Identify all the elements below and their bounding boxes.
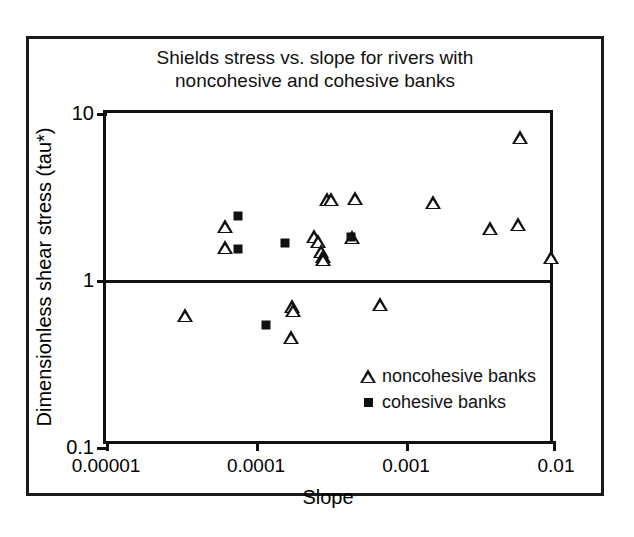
legend-item-cohesive-banks: cohesive banks <box>354 389 536 415</box>
plot-area: 1010.10.000010.00010.0010.01 noncohesive… <box>103 110 553 444</box>
y-tick-label-1: 1 <box>83 270 94 290</box>
data-point-square-4 <box>261 321 270 330</box>
legend-label-cohesive: cohesive banks <box>382 389 506 415</box>
data-point-triangle-14 <box>510 217 526 231</box>
x-tick-1 <box>256 441 259 451</box>
data-point-triangle-18 <box>285 303 301 317</box>
data-point-triangle-16 <box>177 308 193 322</box>
data-point-triangle-13 <box>512 130 528 144</box>
reference-line-tau-1 <box>106 280 550 283</box>
y-tick-1 <box>97 280 107 283</box>
legend-label-noncohesive: noncohesive banks <box>382 363 536 389</box>
y-tick-0 <box>97 113 107 116</box>
x-tick-label-3: 0.01 <box>538 456 575 476</box>
y-tick-label-2: 0.1 <box>66 437 94 457</box>
data-point-triangle-12 <box>482 221 498 235</box>
x-tick-2 <box>406 441 409 451</box>
page-bottom-caption <box>0 502 634 537</box>
data-point-triangle-0 <box>217 219 233 233</box>
data-point-triangle-9 <box>347 191 363 205</box>
x-tick-label-1: 0.0001 <box>227 456 285 476</box>
data-point-triangle-11 <box>425 195 441 209</box>
triangle-marker-icon <box>354 369 382 383</box>
data-point-square-3 <box>346 232 355 241</box>
data-point-triangle-15 <box>543 250 559 264</box>
y-tick-label-0: 10 <box>72 103 94 123</box>
x-tick-0 <box>106 441 109 451</box>
x-tick-label-2: 0.001 <box>382 456 430 476</box>
y-axis-title: Dimensionless shear stress (tau*) <box>30 110 58 444</box>
chart-title: Shields stress vs. slope for rivers with… <box>60 46 570 92</box>
data-point-triangle-8 <box>323 192 339 206</box>
square-marker-icon <box>354 398 382 407</box>
data-point-square-2 <box>280 239 289 248</box>
data-point-square-1 <box>233 244 242 253</box>
data-point-triangle-20 <box>372 297 388 311</box>
x-tick-3 <box>553 441 556 451</box>
legend-item-noncohesive-banks: noncohesive banks <box>354 363 536 389</box>
data-point-square-0 <box>233 211 242 220</box>
data-point-triangle-6 <box>315 252 331 266</box>
x-tick-label-0: 0.00001 <box>72 456 141 476</box>
data-point-triangle-19 <box>283 330 299 344</box>
data-point-triangle-1 <box>217 240 233 254</box>
chart-legend: noncohesive banks cohesive banks <box>354 363 536 415</box>
